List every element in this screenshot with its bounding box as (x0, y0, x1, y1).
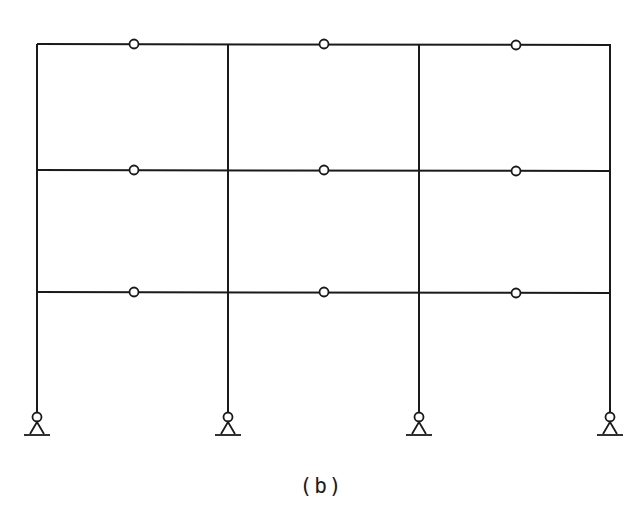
hinge-icon (320, 40, 329, 49)
hinge-icon (512, 289, 521, 298)
hinge-icon (320, 288, 329, 297)
support-triangle (412, 422, 426, 434)
support-pin-circle (33, 413, 42, 422)
hinge-icon (512, 41, 521, 50)
frame-diagram (0, 0, 643, 519)
hinge-icon (130, 288, 139, 297)
support-pin-circle (606, 413, 615, 422)
support-triangle (221, 422, 235, 434)
support-triangle (30, 422, 44, 434)
pin-support-icon (597, 413, 623, 436)
pin-support-icon (406, 413, 432, 436)
hinge-icon (320, 166, 329, 175)
pin-support-icon (24, 413, 50, 436)
support-triangle (603, 422, 617, 434)
hinge-icon (512, 167, 521, 176)
support-pin-circle (415, 413, 424, 422)
hinge-icon (130, 166, 139, 175)
pin-support-icon (215, 413, 241, 436)
support-pin-circle (224, 413, 233, 422)
figure-caption: (b) (0, 474, 643, 498)
hinge-icon (130, 40, 139, 49)
